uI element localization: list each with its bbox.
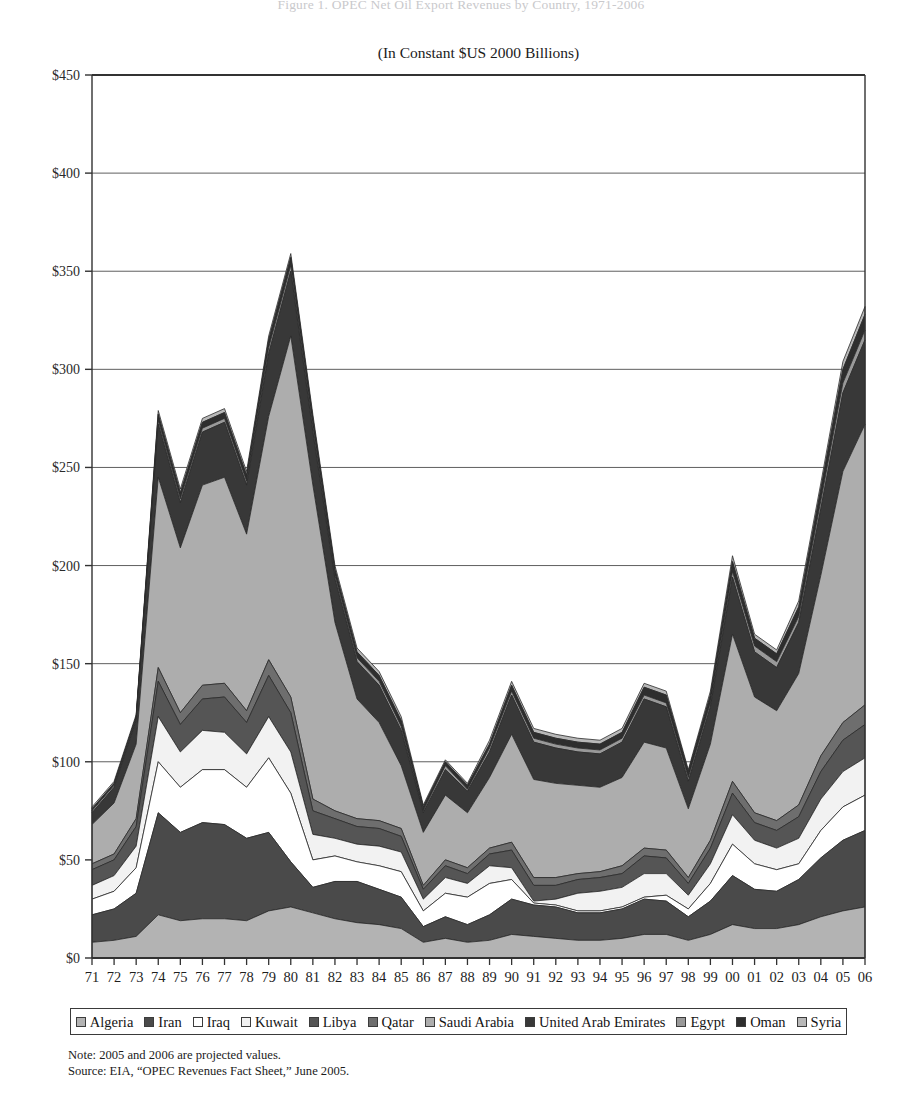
x-axis-tick-label: 83 [350, 969, 365, 985]
legend-item-algeria[interactable]: Algeria [76, 1015, 133, 1029]
chart-legend: AlgeriaIranIraqKuwaitLibyaQatarSaudi Ara… [70, 1008, 847, 1035]
x-axis-tick-label: 02 [769, 969, 784, 985]
x-axis-tick-label: 75 [173, 969, 188, 985]
x-axis-tick-label: 82 [328, 969, 343, 985]
y-axis-tick-label: $350 [52, 264, 80, 279]
legend-item-iraq[interactable]: Iraq [193, 1015, 230, 1029]
legend-item-egypt[interactable]: Egypt [676, 1015, 725, 1029]
x-axis-tick-label: 77 [217, 969, 232, 985]
source-line: Source: EIA, “OPEC Revenues Fact Sheet,”… [68, 1064, 868, 1080]
chart-plot-area: $0$50$100$150$200$250$300$350$400$450 71… [0, 0, 922, 1102]
y-axis-tick-label: $450 [52, 68, 80, 83]
x-axis-tick-label: 78 [239, 969, 254, 985]
x-axis-tick-label: 05 [836, 969, 851, 985]
legend-item-qatar[interactable]: Qatar [368, 1015, 414, 1029]
x-axis-tick-label: 90 [504, 969, 519, 985]
legend-swatch-oman [736, 1017, 746, 1027]
x-axis-tick-label: 72 [107, 969, 122, 985]
legend-item-label: Libya [323, 1015, 357, 1029]
x-axis-tick-label: 00 [725, 969, 740, 985]
legend-item-label: Qatar [382, 1015, 414, 1029]
legend-swatch-qatar [368, 1017, 378, 1027]
legend-item-label: United Arab Emirates [539, 1015, 665, 1029]
y-axis-ticks [85, 75, 92, 958]
x-axis-tick-label: 73 [129, 969, 144, 985]
legend-swatch-saudi-arabia [425, 1017, 435, 1027]
legend-swatch-egypt [676, 1017, 686, 1027]
legend-item-label: Iraq [207, 1015, 230, 1029]
stacked-areas [92, 254, 865, 958]
x-axis-tick-label: 80 [284, 969, 299, 985]
x-axis-tick-label: 89 [482, 969, 497, 985]
legend-item-saudi-arabia[interactable]: Saudi Arabia [425, 1015, 514, 1029]
note-line: Note: 2005 and 2006 are projected values… [68, 1048, 868, 1064]
legend-item-oman[interactable]: Oman [736, 1015, 785, 1029]
figure-notes: Note: 2005 and 2006 are projected values… [68, 1048, 868, 1079]
y-axis-tick-label: $0 [66, 951, 80, 966]
x-axis-tick-label: 85 [394, 969, 409, 985]
legend-item-libya[interactable]: Libya [309, 1015, 357, 1029]
y-axis-tick-label: $100 [52, 755, 80, 770]
x-axis-tick-label: 94 [593, 969, 608, 985]
x-axis-labels: 7172737475767778798081828384858687888990… [85, 969, 873, 985]
x-axis-tick-label: 84 [372, 969, 387, 985]
legend-item-label: Syria [811, 1015, 842, 1029]
x-axis-tick-label: 76 [195, 969, 210, 985]
y-axis-tick-label: $150 [52, 657, 80, 672]
x-axis-tick-label: 06 [858, 969, 873, 985]
x-axis-tick-label: 95 [615, 969, 630, 985]
x-axis-tick-label: 87 [438, 969, 453, 985]
legend-swatch-libya [309, 1017, 319, 1027]
x-axis-tick-label: 79 [261, 969, 276, 985]
legend-item-label: Kuwait [255, 1015, 298, 1029]
legend-item-label: Iran [158, 1015, 181, 1029]
x-axis-tick-label: 99 [703, 969, 718, 985]
y-axis-tick-label: $400 [52, 166, 80, 181]
x-axis-tick-label: 91 [526, 969, 541, 985]
legend-item-label: Algeria [90, 1015, 133, 1029]
legend-swatch-uae [525, 1017, 535, 1027]
x-axis-tick-label: 96 [637, 969, 652, 985]
x-axis-tick-label: 86 [416, 969, 431, 985]
x-axis-tick-label: 81 [306, 969, 321, 985]
x-axis-ticks [92, 958, 865, 965]
y-axis-tick-label: $50 [59, 853, 80, 868]
x-axis-tick-label: 74 [151, 969, 166, 985]
legend-swatch-kuwait [241, 1017, 251, 1027]
legend-item-label: Oman [750, 1015, 785, 1029]
x-axis-tick-label: 04 [814, 969, 829, 985]
x-axis-tick-label: 92 [549, 969, 564, 985]
y-axis-labels: $0$50$100$150$200$250$300$350$400$450 [52, 68, 80, 966]
x-axis-tick-label: 97 [659, 969, 674, 985]
legend-item-united-arab-emirates[interactable]: United Arab Emirates [525, 1015, 665, 1029]
legend-swatch-iran [144, 1017, 154, 1027]
x-axis-tick-label: 88 [460, 969, 475, 985]
x-axis-tick-label: 01 [747, 969, 762, 985]
legend-swatch-algeria [76, 1017, 86, 1027]
legend-item-iran[interactable]: Iran [144, 1015, 181, 1029]
legend-item-syria[interactable]: Syria [797, 1015, 842, 1029]
y-axis-tick-label: $250 [52, 460, 80, 475]
legend-swatch-iraq [193, 1017, 203, 1027]
stacked-area-chart-figure: $0$50$100$150$200$250$300$350$400$450 71… [0, 0, 922, 1102]
legend-swatch-syria [797, 1017, 807, 1027]
legend-item-label: Egypt [690, 1015, 725, 1029]
x-axis-tick-label: 03 [791, 969, 806, 985]
x-axis-tick-label: 98 [681, 969, 696, 985]
x-axis-tick-label: 93 [571, 969, 586, 985]
y-axis-tick-label: $300 [52, 362, 80, 377]
legend-item-label: Saudi Arabia [439, 1015, 514, 1029]
legend-item-kuwait[interactable]: Kuwait [241, 1015, 298, 1029]
x-axis-tick-label: 71 [85, 969, 100, 985]
y-axis-tick-label: $200 [52, 559, 80, 574]
